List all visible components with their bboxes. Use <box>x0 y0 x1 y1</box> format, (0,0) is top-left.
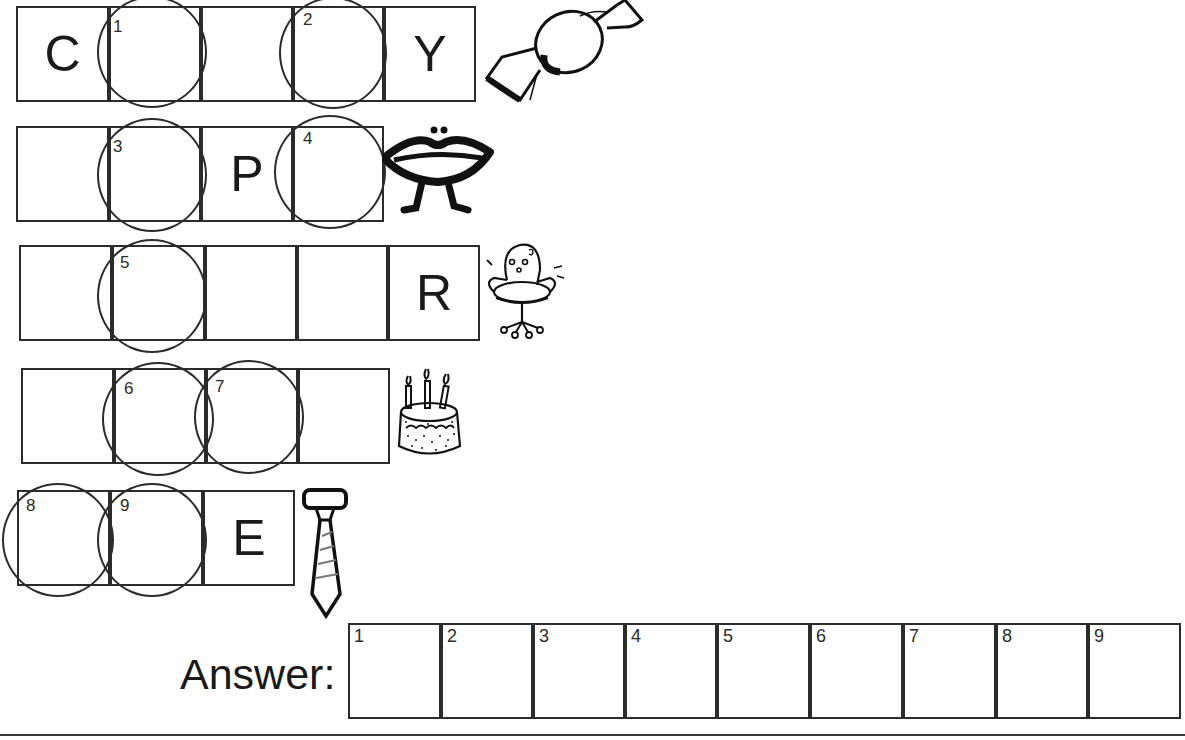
circle-number: 9 <box>120 497 129 514</box>
cell-letter <box>299 247 386 339</box>
answer-cell-5[interactable]: 5 <box>717 623 810 719</box>
answer-cell-3[interactable]: 3 <box>533 623 625 719</box>
cake-icon <box>394 366 469 461</box>
circle-number: 7 <box>215 378 224 395</box>
cell-letter <box>18 128 107 220</box>
cell-letter <box>111 128 199 220</box>
puzzle-cell-candy-3[interactable] <box>201 6 293 102</box>
puzzle-cell-chair-1[interactable] <box>19 245 112 341</box>
answer-cell-number: 8 <box>1002 627 1012 645</box>
circle-number: 3 <box>113 138 122 155</box>
cell-letter: R <box>390 247 478 339</box>
bottom-divider <box>0 734 1185 736</box>
circle-number: 6 <box>124 380 133 397</box>
answer-cell-1[interactable]: 1 <box>348 623 441 719</box>
answer-cell-9[interactable]: 9 <box>1088 623 1181 719</box>
answer-cell-number: 4 <box>631 627 641 645</box>
answer-cell-6[interactable]: 6 <box>810 623 903 719</box>
answer-cell-number: 9 <box>1094 627 1104 645</box>
puzzle-cell-tie-3[interactable]: E <box>203 490 295 586</box>
lips-icon <box>382 120 497 220</box>
answer-cell-2[interactable]: 2 <box>441 623 533 719</box>
puzzle-cell-candy-5[interactable]: Y <box>384 6 476 102</box>
tie-icon <box>298 486 354 622</box>
puzzle-cell-lips-3[interactable]: P <box>201 126 293 222</box>
circle-number: 4 <box>303 130 312 147</box>
circle-number: 1 <box>113 18 122 35</box>
puzzle-cell-lips-1[interactable] <box>16 126 109 222</box>
cell-letter: P <box>203 128 291 220</box>
circle-number: 8 <box>26 497 35 514</box>
puzzle-cell-chair-4[interactable] <box>297 245 388 341</box>
answer-cell-number: 3 <box>539 627 549 645</box>
cell-letter <box>21 247 110 339</box>
puzzle-cell-chair-3[interactable] <box>205 245 297 341</box>
answer-cell-4[interactable]: 4 <box>625 623 717 719</box>
cell-letter <box>207 247 295 339</box>
cell-letter: C <box>18 8 107 100</box>
puzzle-cell-lips-2[interactable] <box>109 126 201 222</box>
answer-cell-number: 1 <box>354 627 364 645</box>
answer-cell-number: 2 <box>447 627 457 645</box>
puzzle-cell-candy-1[interactable]: C <box>16 6 109 102</box>
answer-label: Answer: <box>180 650 335 699</box>
puzzle-cell-candy-2[interactable] <box>109 6 201 102</box>
cell-letter <box>23 370 112 462</box>
answer-cell-7[interactable]: 7 <box>903 623 996 719</box>
cell-letter: E <box>205 492 293 584</box>
cell-letter: Y <box>386 8 474 100</box>
answer-cell-8[interactable]: 8 <box>996 623 1088 719</box>
cell-letter <box>203 8 291 100</box>
circle-number: 2 <box>303 11 312 28</box>
answer-cell-number: 5 <box>723 627 733 645</box>
circle-number: 5 <box>120 254 129 271</box>
puzzle-cell-chair-5[interactable]: R <box>388 245 480 341</box>
answer-cell-number: 7 <box>909 627 919 645</box>
puzzle-cell-cake-1[interactable] <box>21 368 114 464</box>
cell-letter <box>300 370 388 462</box>
puzzle-cell-cake-4[interactable] <box>298 368 390 464</box>
chair-icon <box>482 240 567 340</box>
cell-letter <box>111 8 199 100</box>
answer-cell-number: 6 <box>816 627 826 645</box>
candy-icon <box>482 0 652 105</box>
